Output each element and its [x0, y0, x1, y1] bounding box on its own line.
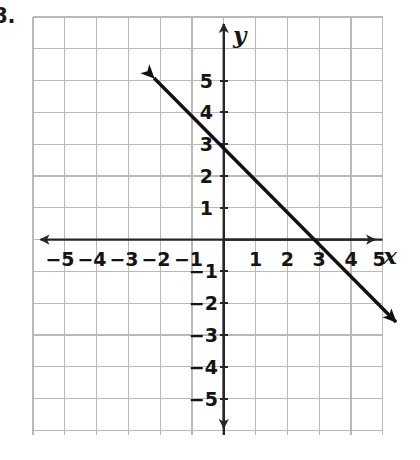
y-tick-label: 4 — [200, 101, 213, 123]
x-tick-label: −3 — [109, 248, 138, 270]
coordinate-graph-figure: 8. — [0, 0, 420, 460]
y-tick-label: 1 — [200, 197, 213, 219]
y-tick-label: −2 — [189, 292, 218, 314]
x-tick-label: −5 — [45, 248, 74, 270]
x-tick-label: −4 — [77, 248, 106, 270]
x-tick-label: 3 — [313, 248, 326, 270]
x-tick-label: 1 — [249, 248, 262, 270]
y-tick-label: −1 — [189, 260, 218, 282]
line-graph — [154, 78, 396, 322]
plotted-line-series — [154, 78, 396, 322]
coordinate-plane: −5 −4 −3 −2 −1 1 2 3 4 5 5 4 3 2 1 −1 −2… — [0, 0, 420, 460]
y-tick-label: −3 — [189, 324, 218, 346]
x-tick-label: −2 — [141, 248, 170, 270]
x-axis-label: x — [382, 242, 397, 269]
y-tick-label: 3 — [200, 133, 213, 155]
x-tick-label: 2 — [281, 248, 294, 270]
y-axis-label: y — [232, 21, 248, 48]
y-tick-label: 2 — [200, 165, 213, 187]
x-tick-label: 4 — [344, 248, 357, 270]
y-tick-label: −5 — [189, 388, 218, 410]
y-tick-label: −4 — [189, 356, 218, 378]
y-tick-label: 5 — [200, 70, 213, 92]
